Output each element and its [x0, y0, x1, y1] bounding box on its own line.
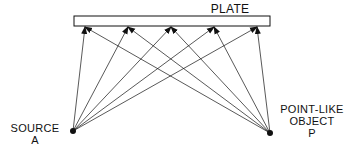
source-point — [70, 128, 76, 134]
object-label-line1: POINT-LIKE — [276, 103, 348, 115]
rays-from-source — [73, 27, 257, 131]
object-label: POINT-LIKE OBJECT P — [276, 103, 348, 139]
object-label-line3: P — [276, 127, 348, 139]
plate — [74, 16, 270, 26]
source-label-line2: A — [6, 134, 64, 146]
source-label: SOURCE A — [6, 122, 64, 146]
object-label-line2: OBJECT — [276, 115, 348, 127]
source-label-line1: SOURCE — [6, 122, 64, 134]
rays-from-object — [85, 27, 270, 133]
object-point — [267, 130, 273, 136]
plate-label: PLATE — [208, 3, 252, 15]
